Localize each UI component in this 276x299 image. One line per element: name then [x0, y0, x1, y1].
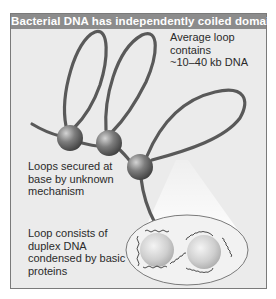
base-sphere-2 — [96, 130, 122, 156]
loops-secured-label: Loops secured at base by unknown mechani… — [28, 160, 114, 198]
average-loop-label: Average loop contains ~10–40 kb DNA — [170, 31, 248, 69]
loop-consists-label: Loop consists of duplex DNA condensed by… — [28, 227, 125, 277]
base-sphere-3 — [127, 154, 153, 180]
protein-sphere-1 — [140, 233, 174, 267]
protein-sphere-2 — [187, 235, 221, 269]
base-sphere-1 — [57, 125, 83, 151]
